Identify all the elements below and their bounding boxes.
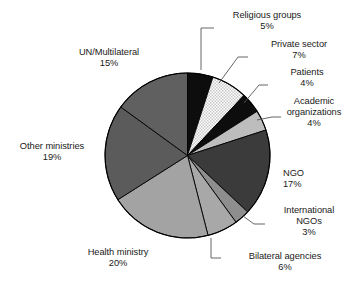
- label-ngo: NGO 17%: [283, 168, 353, 190]
- label-other-ministries: Other ministries 19%: [4, 141, 100, 163]
- label-academic-organizations: Academic organizations 4%: [272, 96, 356, 130]
- pie-chart-figure: Religious groups 5% Private sector 7% Pa…: [0, 0, 357, 288]
- pie-slices-group: [105, 73, 270, 238]
- label-patients: Patients 4%: [262, 67, 352, 89]
- label-private-sector: Private sector 7%: [245, 39, 353, 61]
- leader-line-religious-groups: [201, 28, 214, 70]
- label-health-ministry: Health ministry 20%: [63, 247, 173, 269]
- leader-line-bilateral-agencies: [211, 238, 221, 258]
- leader-line-private-sector: [219, 57, 248, 83]
- label-un-multilateral: UN/Multilateral 15%: [54, 47, 164, 69]
- label-religious-groups: Religious groups 5%: [212, 10, 322, 32]
- label-international-ngos: International NGOs 3%: [264, 205, 354, 239]
- leader-line-international-ngos: [243, 216, 265, 224]
- label-bilateral-agencies: Bilateral agencies 6%: [221, 251, 349, 273]
